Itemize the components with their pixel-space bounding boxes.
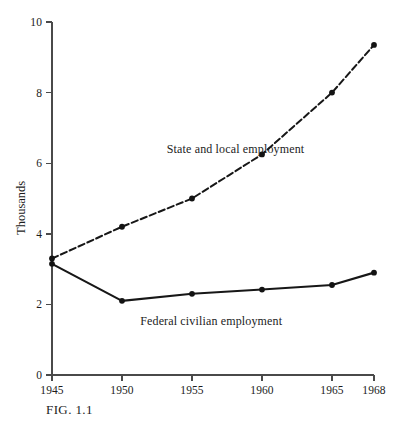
y-tick-label: 10 xyxy=(14,16,42,28)
y-tick-label: 6 xyxy=(14,157,42,169)
y-axis-title: Thousands xyxy=(14,180,29,234)
series-lines xyxy=(52,45,374,301)
series-label: State and local employment xyxy=(167,142,305,157)
y-tick-label: 2 xyxy=(14,298,42,310)
data-point-marker xyxy=(189,196,195,202)
x-axis-ticks xyxy=(52,375,374,381)
data-point-marker xyxy=(119,224,125,230)
x-tick-label: 1950 xyxy=(110,384,133,396)
data-point-marker xyxy=(259,287,265,293)
data-point-marker xyxy=(371,42,377,48)
series-markers xyxy=(49,42,377,304)
y-tick-label: 8 xyxy=(14,87,42,99)
series-line xyxy=(52,264,374,301)
data-point-marker xyxy=(49,256,55,262)
figure-caption: FIG. 1.1 xyxy=(46,402,93,418)
figure-container: Thousands 0246810 1945195019551960196519… xyxy=(0,0,403,431)
y-tick-label: 0 xyxy=(14,369,42,381)
y-axis-ticks xyxy=(46,22,52,375)
data-point-marker xyxy=(49,261,55,267)
data-point-marker xyxy=(119,298,125,304)
data-point-marker xyxy=(371,270,377,276)
line-chart-canvas xyxy=(0,0,403,431)
x-tick-label: 1965 xyxy=(320,384,343,396)
y-tick-label: 4 xyxy=(14,228,42,240)
data-point-marker xyxy=(329,90,335,96)
series-label: Federal civilian employment xyxy=(140,314,282,329)
x-tick-label: 1955 xyxy=(180,384,203,396)
data-point-marker xyxy=(189,291,195,297)
x-tick-label: 1960 xyxy=(250,384,273,396)
x-tick-label: 1968 xyxy=(362,384,385,396)
data-point-marker xyxy=(329,282,335,288)
x-tick-label: 1945 xyxy=(40,384,63,396)
